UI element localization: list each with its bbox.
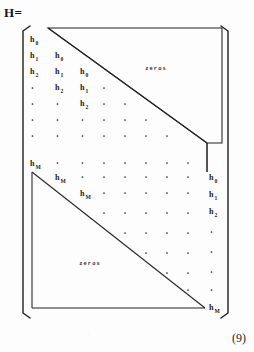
upper-ellipsis-dots: [32, 87, 189, 164]
matrix-entry-subscript: 2: [60, 88, 63, 94]
matrix-entry-subscript: 2: [35, 72, 38, 78]
lower-ellipsis-dots: [82, 176, 189, 291]
matrix-entry: h: [30, 51, 35, 60]
matrix-diagram: h 0 h 1 h 0 h 2 h 1 h 0 h 2 h 1 h 2 h M: [0, 0, 254, 352]
matrix-entry: h: [209, 207, 214, 216]
right-column-ellipsis-dots: [211, 231, 213, 291]
matrix-entry-subscript: M: [60, 178, 66, 184]
upper-band-diagonal: [48, 28, 207, 143]
left-bracket: [23, 26, 30, 318]
matrix-entry-subscript: 2: [214, 212, 217, 218]
matrix-entry: h: [30, 35, 35, 44]
matrix-entry: h: [209, 190, 214, 199]
matrix-entry-subscript: M: [214, 308, 220, 314]
matrix-entry-subscript: 0: [35, 40, 38, 46]
matrix-entry-subscript: M: [35, 164, 41, 170]
zeros-label-lower: zeros: [79, 261, 101, 267]
matrix-entry-subscript: 2: [85, 104, 88, 110]
matrix-entry: h: [55, 51, 60, 60]
matrix-entry: h: [30, 159, 35, 168]
matrix-entry: h: [55, 83, 60, 92]
upper-band-outline: [48, 28, 222, 172]
lower-band-diagonal: [32, 172, 205, 308]
matrix-entry: h: [55, 67, 60, 76]
matrix-entry-subscript: 1: [214, 195, 217, 201]
matrix-entry-subscript: 0: [85, 72, 88, 78]
matrix-entry-subscript: 1: [85, 88, 88, 94]
matrix-entry: h: [30, 67, 35, 76]
matrix-entry: h: [80, 83, 85, 92]
matrix-entry: h: [80, 189, 85, 198]
matrix-entry-subscript: 0: [214, 178, 217, 184]
matrix-entry: h: [209, 173, 214, 182]
matrix-entry: h: [80, 67, 85, 76]
matrix-entry-subscript: 1: [35, 56, 38, 62]
matrix-entry: h: [80, 99, 85, 108]
matrix-entry-subscript: 1: [60, 72, 63, 78]
equation-figure: H= h 0 h 1 h 0 h 2 h 1 h 0 h 2 h 1: [0, 0, 254, 352]
matrix-entry-subscript: 0: [60, 56, 63, 62]
matrix-entry: h: [209, 303, 214, 312]
zeros-label-upper: zeros: [145, 66, 167, 72]
equation-number: (9): [232, 331, 246, 346]
matrix-entry-subscript: M: [85, 194, 91, 200]
matrix-entry: h: [55, 173, 60, 182]
